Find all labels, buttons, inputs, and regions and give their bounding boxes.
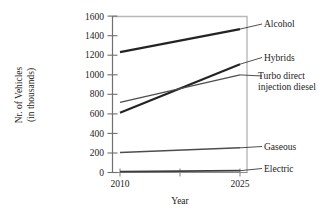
y-tick-label: 1400 [85,31,104,41]
series-label-hybrids: Hybrids [264,53,295,63]
y-axis-title-line1: Nr. of Vehicles [14,66,24,123]
series-line-turbo-direct-injection-diesel [120,75,240,103]
series-line-electric [120,171,240,172]
leader-line-gaseous [240,147,262,148]
series-label-gaseous: Gaseous [264,142,296,152]
series-line-alcohol [120,29,240,52]
x-axis-title: Year [171,196,189,206]
y-tick-label: 1600 [85,12,104,22]
y-axis-tick-labels: 0 200 400 600 800 1000 1200 1400 1600 [85,12,104,178]
y-tick-label: 600 [90,109,105,119]
y-tick-label: 800 [90,89,105,99]
y-tick-label: 0 [99,168,104,178]
y-tick-label: 400 [90,129,105,139]
leader-line-hybrids [240,58,262,65]
series-line-gaseous [120,148,240,153]
y-tick-label: 1200 [85,50,104,60]
series-label-turbo-direct-injection-diesel-line2: injection diesel [258,82,316,92]
leader-line-alcohol [240,24,262,29]
y-axis-title: Nr. of Vehicles (in thousands) [14,66,37,123]
series-label-turbo-direct-injection-diesel-line1: Turbo direct [258,71,305,81]
x-tick-label: 2025 [231,179,250,189]
chart-canvas: 0 200 400 600 800 1000 1200 1400 1600 20… [0,0,327,211]
y-axis-title-line2: (in thousands) [26,68,37,122]
x-tick-label: 2010 [111,179,130,189]
series-label-electric: Electric [264,164,294,174]
line-chart-figure: 0 200 400 600 800 1000 1200 1400 1600 20… [0,0,327,211]
y-tick-label: 200 [90,148,105,158]
series-label-alcohol: Alcohol [264,19,295,29]
y-tick-label: 1000 [85,70,104,80]
leader-line-electric [240,169,262,171]
